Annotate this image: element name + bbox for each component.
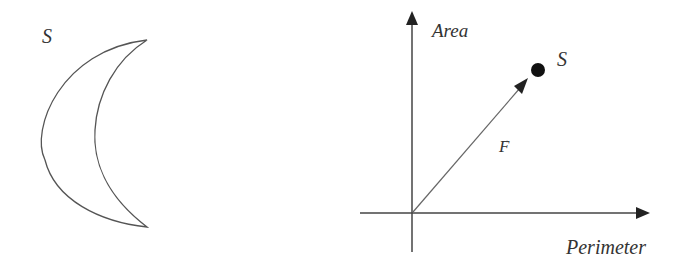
crescent-shape bbox=[41, 40, 147, 227]
point-label: S bbox=[557, 49, 567, 69]
x-axis-label: Perimeter bbox=[566, 237, 646, 257]
vector-f-arrowhead-icon bbox=[514, 78, 528, 94]
shape-label: S bbox=[42, 26, 52, 46]
y-axis-arrowhead-icon bbox=[406, 11, 418, 25]
point-s bbox=[531, 63, 545, 77]
x-axis-arrowhead-icon bbox=[636, 207, 650, 219]
diagram-svg bbox=[0, 0, 696, 269]
vector-accent: → bbox=[501, 136, 507, 145]
y-axis-label: Area bbox=[432, 21, 468, 40]
diagram-canvas: S Area S → F Perimeter bbox=[0, 0, 696, 269]
vector-label: → F bbox=[499, 138, 509, 155]
